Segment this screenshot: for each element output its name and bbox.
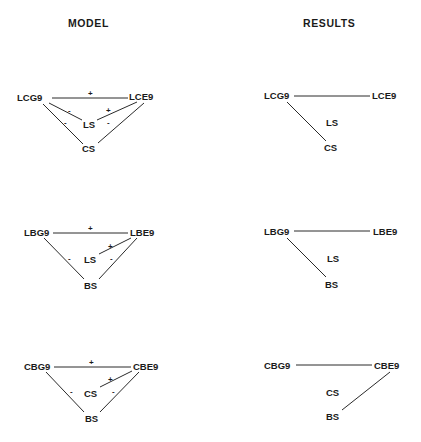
sign-right-bottom: -: [107, 118, 110, 127]
node-right: LBE9: [130, 227, 154, 238]
results-diagram-1: LCG9 LCE9 LS CS: [264, 90, 396, 153]
node-right: CBE9: [374, 360, 399, 371]
node-bottom: BS: [85, 413, 98, 424]
model-header: MODEL: [68, 17, 109, 29]
node-right: LCE9: [129, 91, 153, 102]
edge-left-bottom: [287, 102, 326, 141]
sign-right-middle: +: [106, 106, 111, 115]
node-right: LCE9: [372, 90, 396, 101]
node-bottom: BS: [84, 280, 97, 291]
results-diagram-2: LBG9 LBE9 LS BS: [264, 226, 397, 290]
node-left: LCG9: [17, 92, 42, 103]
node-bottom: CS: [324, 142, 337, 153]
node-left: CBG9: [264, 360, 290, 371]
node-right: CBE9: [133, 361, 158, 372]
node-bottom: CS: [82, 143, 95, 154]
node-bottom: BS: [325, 279, 338, 290]
sign-right-bottom: -: [112, 387, 115, 396]
edge-right-bottom: [342, 372, 390, 410]
model-diagram-1: LCG9 LCE9 LS CS + - + - -: [17, 89, 153, 154]
sign-right-bottom: -: [110, 254, 113, 263]
sign-right-middle: +: [108, 375, 113, 384]
results-diagram-3: CBG9 CBE9 CS BS: [264, 360, 399, 422]
node-middle: CS: [84, 388, 97, 399]
node-left: LCG9: [264, 90, 289, 101]
sign-left-middle: -: [68, 106, 71, 115]
node-bottom: BS: [326, 411, 339, 422]
node-left: LBG9: [264, 226, 289, 237]
edge-right-middle: [97, 102, 137, 120]
node-middle: CS: [326, 387, 339, 398]
node-middle: LS: [326, 117, 338, 128]
sign-left-bottom: -: [68, 254, 71, 263]
sign-left-bottom: -: [70, 387, 73, 396]
edge-left-bottom: [44, 238, 84, 279]
sign-top: +: [88, 224, 93, 233]
edge-left-bottom: [46, 372, 84, 412]
node-left: CBG9: [24, 361, 50, 372]
node-middle: LS: [83, 119, 95, 130]
edge-left-bottom: [287, 238, 326, 277]
model-diagram-3: CBG9 CBE9 CS BS + + - -: [24, 358, 158, 424]
node-left: LBG9: [24, 227, 49, 238]
sign-top: +: [88, 89, 93, 98]
sign-left-bottom: -: [64, 118, 67, 127]
results-header: RESULTS: [303, 17, 355, 29]
edge-right-bottom: [100, 372, 139, 412]
sign-top: +: [89, 358, 94, 367]
edge-right-middle: [99, 238, 131, 254]
node-middle: LS: [84, 254, 96, 265]
node-middle: LS: [327, 253, 339, 264]
model-diagram-2: LBG9 LBE9 LS BS + + - -: [24, 224, 154, 291]
sign-right-middle: +: [108, 242, 113, 251]
node-right: LBE9: [373, 226, 397, 237]
model-vs-results-diagram: MODEL RESULTS LCG9 LCE9 LS CS + - + - - …: [0, 0, 421, 442]
